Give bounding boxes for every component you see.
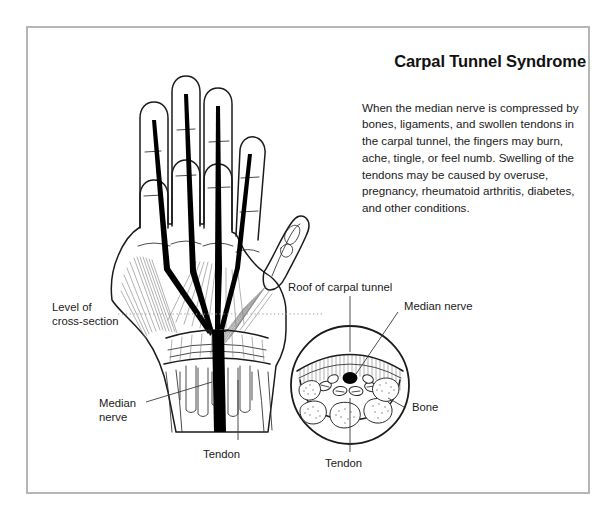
- text-column: Carpal Tunnel Syndrome When the median n…: [362, 52, 586, 217]
- figure-page: Level of cross-section Median nerve Tend…: [0, 0, 615, 521]
- description-paragraph: When the median nerve is compressed by b…: [362, 100, 586, 217]
- page-title: Carpal Tunnel Syndrome: [362, 52, 586, 72]
